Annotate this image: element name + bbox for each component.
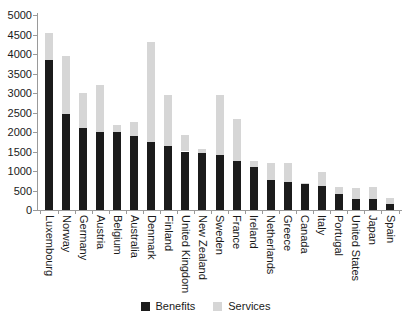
y-tick xyxy=(33,113,37,114)
y-tick-label: 1000 xyxy=(0,165,32,177)
legend-item-benefits: Benefits xyxy=(141,301,196,312)
x-label-new-zealand: New Zealand xyxy=(197,215,208,280)
bar-segment-benefits-portugal xyxy=(335,194,343,210)
x-label-finland: Finland xyxy=(163,215,174,251)
x-label-japan: Japan xyxy=(367,215,378,245)
x-tick xyxy=(75,211,76,214)
x-label-canada: Canada xyxy=(299,215,310,254)
bar-segment-services-united-kingdom xyxy=(181,135,189,152)
plot-area: 0500100015002000250030003500400045005000… xyxy=(0,0,411,332)
bar-segment-benefits-finland xyxy=(164,146,172,210)
x-label-norway: Norway xyxy=(61,215,72,252)
x-tick xyxy=(160,211,161,214)
legend-swatch-benefits-icon xyxy=(141,302,150,311)
y-tick xyxy=(33,54,37,55)
chart-container: 0500100015002000250030003500400045005000… xyxy=(0,0,411,332)
y-tick-label: 4000 xyxy=(0,48,32,60)
y-tick-label: 3500 xyxy=(0,68,32,80)
x-tick xyxy=(245,211,246,214)
bar-segment-services-japan xyxy=(369,187,377,200)
y-tick-label: 4500 xyxy=(0,29,32,41)
bar-segment-services-denmark xyxy=(147,42,155,141)
bar-segment-services-ireland xyxy=(250,161,258,167)
bar-segment-services-finland xyxy=(164,95,172,146)
x-tick xyxy=(194,211,195,214)
x-label-belgium: Belgium xyxy=(112,215,123,255)
x-label-sweden: Sweden xyxy=(214,215,225,255)
y-tick xyxy=(33,171,37,172)
bar-segment-benefits-greece xyxy=(284,182,292,210)
x-label-ireland: Ireland xyxy=(248,215,259,249)
x-label-france: France xyxy=(231,215,242,249)
bar-segment-services-sweden xyxy=(216,95,224,155)
bar-segment-benefits-spain xyxy=(386,204,394,210)
bar-segment-benefits-germany xyxy=(79,128,87,210)
bar-segment-services-norway xyxy=(62,56,70,115)
bar-segment-services-netherlands xyxy=(267,163,275,180)
x-tick xyxy=(364,211,365,214)
x-label-united-states: United States xyxy=(350,215,361,281)
y-tick-label: 5000 xyxy=(0,9,32,21)
x-tick xyxy=(399,211,400,214)
y-tick xyxy=(33,152,37,153)
x-label-australia: Australia xyxy=(129,215,140,258)
y-tick xyxy=(33,210,37,211)
bar-segment-benefits-sweden xyxy=(216,155,224,210)
legend: Benefits Services xyxy=(0,301,411,312)
x-tick xyxy=(279,211,280,214)
bar-segment-benefits-united-kingdom xyxy=(181,152,189,211)
y-tick xyxy=(33,15,37,16)
y-tick xyxy=(33,93,37,94)
y-tick-label: 2000 xyxy=(0,126,32,138)
y-tick-label: 0 xyxy=(0,204,32,216)
x-tick xyxy=(296,211,297,214)
x-tick xyxy=(58,211,59,214)
y-tick-label: 2500 xyxy=(0,107,32,119)
bar-segment-benefits-denmark xyxy=(147,142,155,210)
x-label-italy: Italy xyxy=(316,215,327,235)
bar-segment-benefits-france xyxy=(233,161,241,210)
bar-segment-benefits-norway xyxy=(62,114,70,210)
y-axis-line xyxy=(37,13,38,210)
legend-label-services: Services xyxy=(228,301,270,312)
x-label-spain: Spain xyxy=(385,215,396,243)
bar-segment-services-united-states xyxy=(352,188,360,200)
x-tick xyxy=(143,211,144,214)
bar-segment-services-france xyxy=(233,119,241,161)
bar-segment-services-portugal xyxy=(335,187,343,195)
y-tick xyxy=(33,35,37,36)
bar-segment-services-belgium xyxy=(113,125,121,132)
x-tick xyxy=(211,211,212,214)
bar-segment-services-greece xyxy=(284,163,292,182)
bar-segment-benefits-japan xyxy=(369,199,377,210)
y-tick-label: 1500 xyxy=(0,146,32,158)
x-tick xyxy=(330,211,331,214)
y-tick xyxy=(33,132,37,133)
x-label-united-kingdom: United Kingdom xyxy=(180,215,191,293)
y-tick xyxy=(33,191,37,192)
bar-segment-benefits-canada xyxy=(301,184,309,210)
legend-item-services: Services xyxy=(213,301,270,312)
x-tick xyxy=(92,211,93,214)
bar-segment-services-new-zealand xyxy=(198,149,206,154)
x-tick xyxy=(228,211,229,214)
y-tick xyxy=(33,74,37,75)
x-tick xyxy=(109,211,110,214)
bar-segment-services-austria xyxy=(96,85,104,132)
x-label-denmark: Denmark xyxy=(146,215,157,260)
y-tick-label: 500 xyxy=(0,185,32,197)
x-label-portugal: Portugal xyxy=(333,215,344,256)
x-tick xyxy=(126,211,127,214)
x-tick xyxy=(177,211,178,214)
bar-segment-benefits-belgium xyxy=(113,132,121,210)
x-tick xyxy=(381,211,382,214)
legend-swatch-services-icon xyxy=(213,302,222,311)
bar-segment-services-germany xyxy=(79,93,87,128)
x-tick xyxy=(347,211,348,214)
bar-segment-benefits-united-states xyxy=(352,199,360,210)
bar-segment-benefits-austria xyxy=(96,132,104,210)
x-tick xyxy=(313,211,314,214)
bar-segment-benefits-ireland xyxy=(250,167,258,210)
bar-segment-services-canada xyxy=(301,183,309,184)
x-label-germany: Germany xyxy=(78,215,89,260)
